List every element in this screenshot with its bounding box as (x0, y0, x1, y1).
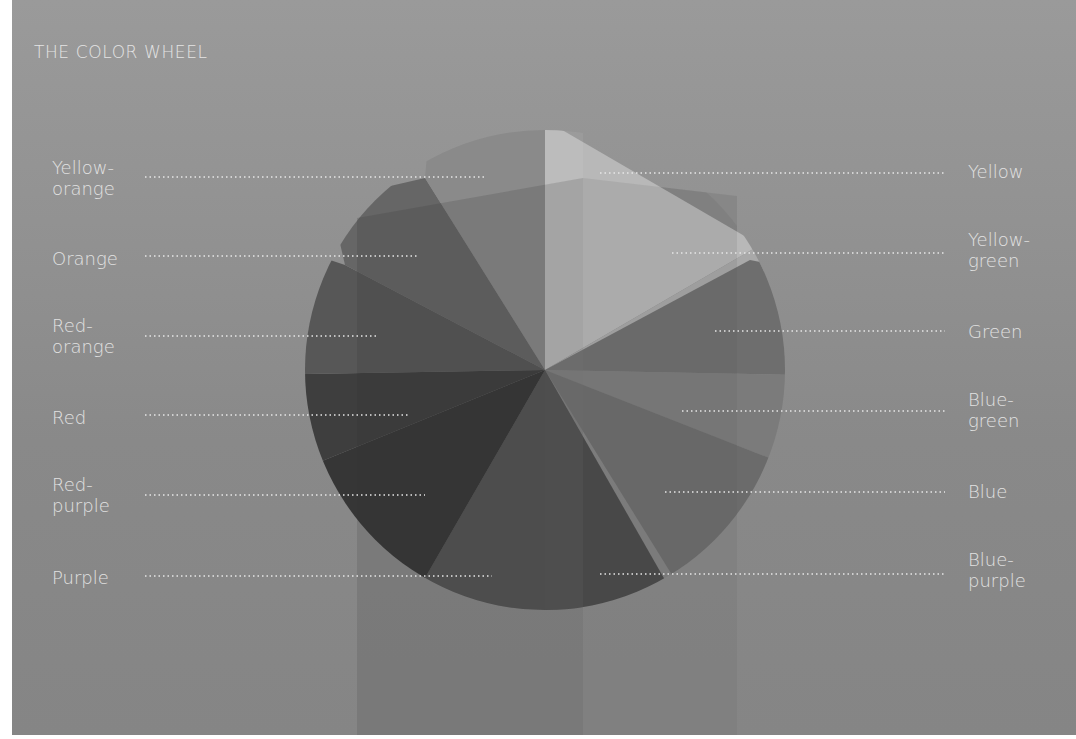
label-red-orange: Red- orange (52, 315, 115, 357)
label-line: purple (968, 570, 1026, 591)
label-line: green (968, 250, 1030, 271)
label-line: orange (52, 336, 115, 357)
label-line: orange (52, 178, 115, 199)
label-green: Green (968, 321, 1023, 342)
label-line: Yellow- (52, 157, 115, 178)
label-line: Yellow (968, 161, 1023, 182)
label-red-purple: Red- purple (52, 474, 110, 516)
label-line: green (968, 410, 1019, 431)
label-yellow-green: Yellow- green (968, 229, 1030, 271)
label-line: Yellow- (968, 229, 1030, 250)
label-line: Red (52, 407, 86, 428)
label-line: Blue (968, 481, 1007, 502)
label-purple: Purple (52, 567, 109, 588)
color-wheel-poster: THE COLOR WHEEL Yellow- orange Orange Re… (12, 0, 1076, 735)
label-line: Blue- (968, 549, 1026, 570)
label-line: Red- (52, 474, 110, 495)
label-line: Red- (52, 315, 115, 336)
label-line: purple (52, 495, 110, 516)
label-line: Orange (52, 248, 118, 269)
label-line: Purple (52, 567, 109, 588)
color-wheel-diagram (12, 0, 1076, 735)
page-title: THE COLOR WHEEL (34, 42, 208, 62)
label-orange: Orange (52, 248, 118, 269)
label-line: Blue- (968, 389, 1019, 410)
label-blue-purple: Blue- purple (968, 549, 1026, 591)
label-blue: Blue (968, 481, 1007, 502)
label-yellow: Yellow (968, 161, 1023, 182)
label-line: Green (968, 321, 1023, 342)
label-red: Red (52, 407, 86, 428)
label-blue-green: Blue- green (968, 389, 1019, 431)
label-yellow-orange: Yellow- orange (52, 157, 115, 199)
